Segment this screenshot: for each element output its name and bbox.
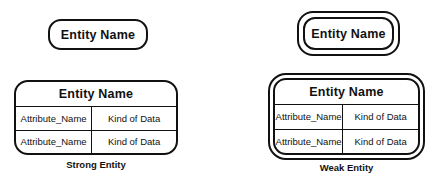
strong-entity-name-box[interactable]: Entity Name [48,19,148,50]
weak-entity-table-inner-border: Entity Name Attribute_Name Kind of Data … [273,78,420,155]
weak-entity-table-header: Entity Name [275,80,418,105]
weak-entity-name-box-inner-border: Entity Name [303,17,394,50]
strong-entity-caption: Strong Entity [14,159,178,170]
strong-kind-of-data-cell: Kind of Data [92,131,176,154]
table-row[interactable]: Attribute_Name Kind of Data [275,130,418,154]
weak-kind-of-data-cell: Kind of Data [343,130,418,154]
weak-attribute-name-cell: Attribute_Name [275,130,343,154]
weak-attribute-name-cell: Attribute_Name [275,105,343,129]
strong-entity-table-border: Entity Name Attribute_Name Kind of Data … [14,80,178,155]
weak-entity-caption: Weak Entity [268,162,425,173]
weak-entity-name-label: Entity Name [311,27,385,41]
strong-entity-table-header: Entity Name [16,82,176,107]
strong-kind-of-data-cell: Kind of Data [92,107,176,130]
strong-attribute-name-cell: Attribute_Name [16,131,92,154]
table-row[interactable]: Attribute_Name Kind of Data [16,107,176,131]
table-row[interactable]: Attribute_Name Kind of Data [16,131,176,154]
weak-kind-of-data-cell: Kind of Data [343,105,418,129]
weak-entity-table[interactable]: Entity Name Attribute_Name Kind of Data … [268,73,425,160]
strong-attribute-name-cell: Attribute_Name [16,107,92,130]
diagram-canvas: Entity Name Entity Name Attribute_Name K… [0,0,440,181]
strong-entity-table[interactable]: Entity Name Attribute_Name Kind of Data … [14,80,178,155]
weak-entity-name-box[interactable]: Entity Name [297,11,400,56]
strong-entity-name-label: Entity Name [61,28,135,42]
table-row[interactable]: Attribute_Name Kind of Data [275,105,418,130]
